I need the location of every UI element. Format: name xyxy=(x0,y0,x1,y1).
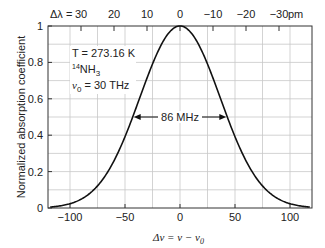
top-tick-label: 20 xyxy=(108,8,120,20)
x-tick-label: −50 xyxy=(116,211,135,223)
fwhm-arrowhead-left xyxy=(134,114,141,120)
fwhm-label: 86 MHz xyxy=(161,111,199,123)
y-tick-label: 1 xyxy=(37,20,43,32)
x-axis-label: Δν = ν − ν0 xyxy=(152,231,204,246)
y-tick-label: 0.2 xyxy=(28,166,43,178)
x-label-subscript: 0 xyxy=(200,237,204,246)
y-axis-label: Normalized absorption coefficient xyxy=(15,36,27,198)
molecule-name: NH xyxy=(80,63,96,75)
y-tick-label: 0 xyxy=(37,202,43,214)
parameters-annotation: T = 273.16 K 14NH3 ν0 = 30 THz xyxy=(70,46,136,94)
fwhm-arrow: 86 MHz xyxy=(134,111,227,123)
top-axis-unit: pm xyxy=(288,8,303,20)
top-tick-label: −10 xyxy=(204,8,223,20)
x-label-main: Δν = ν − ν xyxy=(152,231,200,243)
top-tick-label: 30 xyxy=(75,8,87,20)
x-tick-label: 50 xyxy=(229,211,241,223)
y-tick-label: 0.8 xyxy=(28,56,43,68)
top-axis-prefix: Δλ = xyxy=(50,8,72,20)
y-tick-label: 0.6 xyxy=(28,93,43,105)
fwhm-arrowhead-right xyxy=(219,114,226,120)
top-tick-label: −30 xyxy=(270,8,289,20)
top-tick-label: 10 xyxy=(141,8,153,20)
x-tick-label: 100 xyxy=(281,211,299,223)
molecule-subscript: 3 xyxy=(96,69,101,78)
isotope-mass: 14 xyxy=(72,63,80,70)
top-tick-label: −20 xyxy=(237,8,256,20)
nu0-value: = 30 THz xyxy=(81,79,129,91)
top-tick-label: 0 xyxy=(177,8,183,20)
x-tick-label: 0 xyxy=(177,211,183,223)
temperature-label: T = 273.16 K xyxy=(72,47,136,59)
absorption-chart: −100−5005010000.20.40.60.813020100−10−20… xyxy=(0,0,325,248)
y-tick-label: 0.4 xyxy=(28,129,43,141)
x-tick-label: −100 xyxy=(58,211,83,223)
